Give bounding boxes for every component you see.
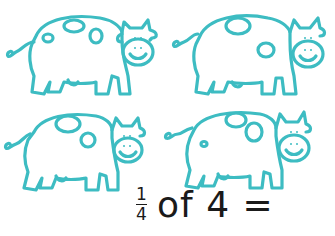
fraction-question: 1 4 of 4 = [136,176,274,232]
cow-icon [4,106,154,202]
fraction-denominator: 4 [136,206,147,222]
cow-icon [4,6,164,106]
question-text: of 4 = [157,184,274,225]
fraction-numerator: 1 [136,186,147,202]
cow-icon [172,6,332,106]
fraction: 1 4 [136,186,147,223]
